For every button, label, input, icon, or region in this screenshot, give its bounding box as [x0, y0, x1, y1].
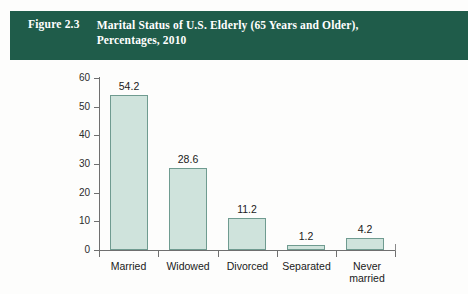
y-axis-label-40: 40 [60, 130, 90, 140]
figure-header-row: Figure 2.3 Marital Status of U.S. Elderl… [28, 18, 468, 48]
y-label-30-wrap: 30 [56, 159, 90, 169]
y-axis-label-50: 50 [60, 102, 90, 112]
x-axis-category-never-married-text: Never married [349, 260, 385, 284]
bar-divorced [228, 218, 266, 250]
y-label-40-wrap: 40 [56, 130, 90, 140]
figure-title-line-2: Percentages, 2010 [97, 33, 359, 48]
bar-value-divorced: 11.2 [228, 204, 266, 215]
bar-married [110, 95, 148, 250]
y-label-20-wrap: 20 [56, 188, 90, 198]
x-axis-category-divorced: Divorced [218, 260, 277, 272]
y-axis-label-0: 0 [60, 245, 90, 255]
figure-title: Marital Status of U.S. Elderly (65 Years… [97, 18, 359, 48]
bar-chart: 0 10 20 30 40 50 60 54.2 28.6 11.2 1.2 4… [0, 60, 468, 294]
bar-separated [287, 245, 325, 250]
x-axis-category-never-married: Never married [338, 260, 396, 284]
x-axis-line [99, 250, 396, 251]
y-axis-label-60: 60 [60, 73, 90, 83]
bar-value-never-married: 4.2 [346, 224, 384, 235]
x-tick-5 [395, 251, 396, 257]
bar-value-married: 54.2 [110, 81, 148, 92]
x-axis-category-separated: Separated [275, 260, 338, 272]
x-tick-4 [336, 251, 337, 257]
y-label-0-wrap: 0 [56, 245, 90, 255]
y-label-50-wrap: 50 [56, 102, 90, 112]
y-label-60-wrap: 60 [56, 73, 90, 83]
x-tick-1 [158, 251, 159, 257]
x-axis-category-married: Married [99, 260, 158, 272]
bar-widowed [169, 168, 207, 250]
x-tick-0 [99, 251, 100, 257]
figure-header-band: Figure 2.3 Marital Status of U.S. Elderl… [10, 11, 468, 60]
y-axis-label-20: 20 [60, 188, 90, 198]
y-label-10-wrap: 10 [56, 216, 90, 226]
figure-title-line-1: Marital Status of U.S. Elderly (65 Years… [97, 18, 359, 33]
x-axis-category-widowed: Widowed [158, 260, 218, 272]
bar-value-widowed: 28.6 [169, 154, 207, 165]
figure-number: Figure 2.3 [28, 18, 80, 30]
bar-value-separated: 1.2 [287, 231, 325, 242]
y-axis-label-30: 30 [60, 159, 90, 169]
bar-never-married [346, 238, 384, 250]
y-axis-label-10: 10 [60, 216, 90, 226]
x-tick-2 [218, 251, 219, 257]
x-tick-3 [277, 251, 278, 257]
